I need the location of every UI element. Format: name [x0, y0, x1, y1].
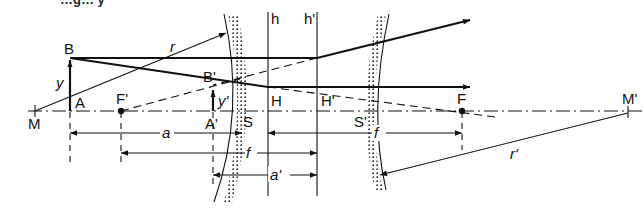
label-h: h: [271, 10, 279, 27]
label-A-prime: A': [205, 115, 218, 132]
focal-point-F: [459, 108, 465, 114]
caption-fragment: …g… y: [60, 0, 106, 7]
label-F: F: [457, 90, 466, 107]
label-S-prime: S': [354, 113, 367, 130]
label-r: r: [170, 38, 176, 55]
label-H-prime: H': [321, 92, 335, 109]
label-B: B: [64, 40, 74, 57]
label-y: y: [55, 74, 65, 91]
thick-lens-diagram: …g… y M: [0, 0, 643, 208]
dimension-label-a: a: [162, 124, 170, 141]
label-A: A: [75, 94, 85, 111]
label-h-prime: h': [304, 10, 315, 27]
label-F-prime: F': [116, 90, 128, 107]
label-r-prime: r': [510, 145, 519, 162]
label-S: S: [243, 113, 253, 130]
ray-refracted-up: [317, 20, 470, 58]
label-H: H: [271, 92, 282, 109]
focal-point-F-prime: [118, 108, 124, 114]
radius-r-prime: [380, 113, 628, 175]
dimension-label-a-prime: a': [270, 166, 282, 183]
label-M: M: [28, 115, 41, 132]
label-M-prime: M': [622, 90, 637, 107]
label-B-prime: B': [203, 68, 216, 85]
label-y-prime: y': [217, 92, 230, 109]
